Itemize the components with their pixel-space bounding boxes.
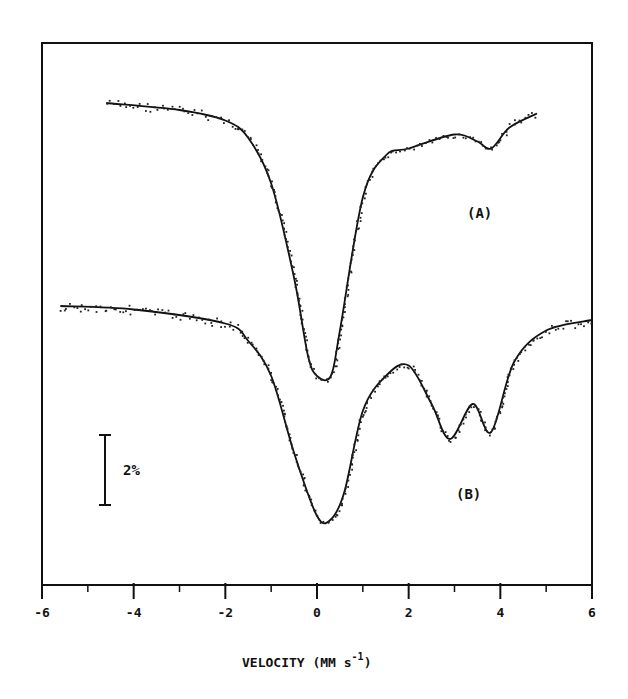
data-point bbox=[359, 419, 361, 421]
data-point bbox=[350, 271, 352, 273]
data-point bbox=[514, 359, 516, 361]
data-point bbox=[447, 137, 449, 139]
data-point bbox=[230, 322, 232, 324]
data-point bbox=[296, 454, 298, 456]
data-point bbox=[211, 325, 213, 327]
data-point bbox=[341, 505, 343, 507]
data-point bbox=[283, 410, 285, 412]
data-point bbox=[308, 495, 310, 497]
data-point bbox=[377, 162, 379, 164]
data-point bbox=[295, 286, 297, 288]
data-point bbox=[318, 519, 320, 521]
data-point bbox=[175, 316, 177, 318]
data-point bbox=[263, 360, 265, 362]
data-point bbox=[440, 427, 442, 429]
data-point bbox=[351, 259, 353, 261]
data-point bbox=[122, 311, 124, 313]
data-point bbox=[344, 491, 346, 493]
data-point bbox=[174, 108, 176, 110]
data-point bbox=[118, 100, 120, 102]
data-point bbox=[437, 415, 439, 417]
data-point bbox=[310, 363, 312, 365]
data-point bbox=[298, 300, 300, 302]
data-point bbox=[430, 400, 432, 402]
data-point bbox=[516, 357, 518, 359]
data-point bbox=[147, 103, 149, 105]
data-point bbox=[344, 297, 346, 299]
data-point bbox=[194, 109, 196, 111]
data-points bbox=[60, 100, 593, 524]
data-point bbox=[289, 253, 291, 255]
data-point bbox=[189, 318, 191, 320]
data-point bbox=[157, 309, 159, 311]
data-point bbox=[490, 147, 492, 149]
data-point bbox=[157, 109, 159, 111]
data-point bbox=[283, 229, 285, 231]
data-point bbox=[369, 395, 371, 397]
data-point bbox=[485, 427, 487, 429]
data-point bbox=[360, 206, 362, 208]
data-point bbox=[435, 137, 437, 139]
data-point bbox=[336, 514, 338, 516]
data-point bbox=[481, 420, 483, 422]
series-a-label: (A) bbox=[467, 205, 492, 221]
data-point bbox=[509, 123, 511, 125]
data-point bbox=[447, 435, 449, 437]
data-point bbox=[524, 350, 526, 352]
data-point bbox=[301, 323, 303, 325]
data-point bbox=[417, 145, 419, 147]
data-point bbox=[352, 457, 354, 459]
data-point bbox=[379, 380, 381, 382]
data-point bbox=[339, 347, 341, 349]
data-point bbox=[353, 239, 355, 241]
data-point bbox=[372, 176, 374, 178]
data-point bbox=[105, 310, 107, 312]
data-point bbox=[463, 419, 465, 421]
data-point bbox=[357, 434, 359, 436]
data-point bbox=[220, 321, 222, 323]
data-point bbox=[379, 383, 381, 385]
data-point bbox=[327, 381, 329, 383]
data-point bbox=[275, 202, 277, 204]
data-point bbox=[293, 266, 295, 268]
data-point bbox=[536, 338, 538, 340]
data-point bbox=[196, 319, 198, 321]
data-point bbox=[436, 411, 438, 413]
data-point bbox=[100, 306, 102, 308]
data-point bbox=[403, 367, 405, 369]
data-point bbox=[259, 354, 261, 356]
data-point bbox=[238, 128, 240, 130]
data-point bbox=[404, 150, 406, 152]
data-point bbox=[371, 171, 373, 173]
data-point bbox=[192, 114, 194, 116]
data-point bbox=[387, 156, 389, 158]
data-point bbox=[328, 521, 330, 523]
data-point bbox=[265, 166, 267, 168]
data-point bbox=[268, 175, 270, 177]
data-point bbox=[179, 106, 181, 108]
data-point bbox=[514, 119, 516, 121]
data-point bbox=[539, 337, 541, 339]
data-point bbox=[168, 310, 170, 312]
data-point bbox=[263, 363, 265, 365]
data-point bbox=[479, 415, 481, 417]
data-point bbox=[491, 149, 493, 151]
data-point bbox=[310, 499, 312, 501]
data-point bbox=[489, 435, 491, 437]
data-point bbox=[129, 105, 131, 107]
data-point bbox=[315, 510, 317, 512]
data-point bbox=[425, 142, 427, 144]
data-point bbox=[458, 429, 460, 431]
data-point bbox=[352, 254, 354, 256]
data-point bbox=[232, 126, 234, 128]
data-point bbox=[383, 158, 385, 160]
data-point bbox=[486, 430, 488, 432]
data-point bbox=[333, 371, 335, 373]
data-point bbox=[137, 106, 139, 108]
data-point bbox=[278, 209, 280, 211]
data-point bbox=[207, 119, 209, 121]
data-point bbox=[275, 195, 277, 197]
data-point bbox=[460, 424, 462, 426]
data-point bbox=[578, 323, 580, 325]
data-point bbox=[465, 414, 467, 416]
